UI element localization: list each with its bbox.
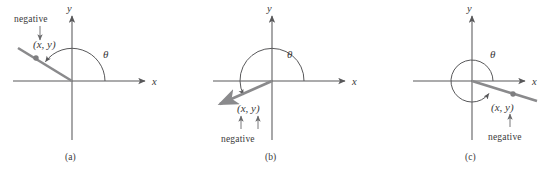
terminal-ray-a [18,48,72,81]
point-dot-c [510,91,515,96]
panel-c-diagram: x y θ (x, y) negative (c) [365,0,548,171]
panel-b: x y θ (x, y) negative (b) [183,0,366,171]
negative-label-b: negative [221,134,255,144]
theta-arc-a [46,48,106,81]
panel-a: x y θ (x, y) negative (a) [0,0,183,171]
panel-a-diagram: x y θ (x, y) negative (a) [0,0,183,171]
panel-b-diagram: x y θ (x, y) negative (b) [183,0,366,171]
point-label-c: (x, y) [491,101,514,114]
theta-label-b: θ [287,48,293,60]
negative-label-c: negative [488,132,522,142]
theta-label-a: θ [103,48,109,60]
x-axis-label-c: x [531,76,537,87]
y-axis-label-b: y [266,3,272,14]
y-axis-label-c: y [466,3,472,14]
theta-label-c: θ [490,48,496,60]
negative-label-a: negative [14,14,48,24]
panel-caption-b: (b) [265,152,276,163]
y-axis-label-a: y [66,3,72,14]
panel-caption-a: (a) [65,152,76,163]
point-label-a: (x, y) [33,38,56,51]
point-label-b: (x, y) [237,102,260,115]
point-dot-a [33,55,38,60]
trigonometry-angle-figure: x y θ (x, y) negative (a) [0,0,548,171]
x-axis-label-a: x [151,76,157,87]
x-axis-label-b: x [351,76,357,87]
panel-caption-c: (c) [465,152,476,163]
terminal-ray-c [472,81,537,101]
panel-c: x y θ (x, y) negative (c) [365,0,548,171]
terminal-ray-b [220,81,272,104]
